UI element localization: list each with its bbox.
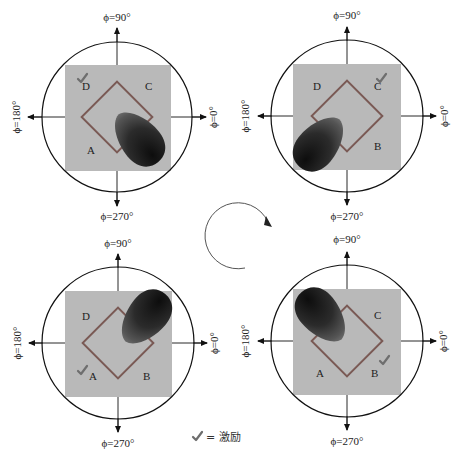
label-C: C (145, 80, 152, 92)
label-D: D (82, 310, 90, 322)
label-A: A (87, 144, 95, 156)
panel-top-left: D C A ϕ=90° ϕ=270° ϕ=180° ϕ=0° (10, 11, 219, 222)
label-phi-90: ϕ=90° (103, 11, 130, 23)
label-phi-180: ϕ=180° (11, 327, 23, 360)
label-phi-0: ϕ=0° (438, 105, 450, 127)
legend: = 激励 (193, 430, 241, 444)
panel-top-right: D C B ϕ=90° ϕ=270° ϕ=180° ϕ=0° (239, 9, 450, 222)
label-phi-180: ϕ=180° (239, 100, 251, 133)
label-phi-270: ϕ=270° (102, 437, 135, 449)
label-phi-0: ϕ=0° (437, 330, 449, 352)
label-phi-90: ϕ=90° (333, 233, 360, 245)
label-phi-180: ϕ=180° (10, 101, 22, 134)
label-phi-90: ϕ=90° (104, 237, 131, 249)
label-phi-270: ϕ=270° (331, 210, 364, 222)
label-D: D (313, 80, 321, 92)
panel-bottom-right: C A B ϕ=90° ϕ=270° ϕ=180° ϕ=0° (239, 233, 449, 447)
label-phi-180: ϕ=180° (239, 325, 251, 358)
label-A: A (316, 367, 324, 379)
label-phi-270: ϕ=270° (331, 435, 364, 447)
label-A: A (89, 370, 97, 382)
legend-text: = 激励 (206, 430, 241, 444)
label-D: D (82, 80, 90, 92)
rotation-arrow-icon (205, 203, 272, 269)
label-C: C (374, 309, 381, 321)
panel-bottom-left: D A B ϕ=90° ϕ=270° ϕ=180° ϕ=0° (11, 237, 220, 449)
label-phi-0: ϕ=0° (208, 332, 220, 354)
label-phi-0: ϕ=0° (207, 106, 219, 128)
label-B: B (371, 367, 378, 379)
legend-check-icon (193, 432, 202, 440)
label-phi-270: ϕ=270° (101, 210, 134, 222)
label-phi-90: ϕ=90° (333, 9, 360, 21)
label-B: B (374, 140, 381, 152)
beam-switching-diagram: D C A ϕ=90° ϕ=270° ϕ=180° ϕ=0° D C B ϕ=9… (0, 0, 464, 456)
label-B: B (143, 370, 150, 382)
